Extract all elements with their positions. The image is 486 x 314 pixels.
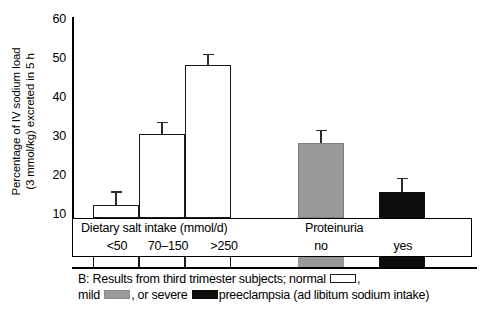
group-label-dietary-salt-intake: Dietary salt intake (mmol/d) (81, 221, 228, 235)
y-tick-label-50: 50 (0, 52, 66, 64)
y-axis-title-line1: Percentage of IV sodium load (10, 14, 24, 229)
errorbar-severe-proteinuria-yes (401, 179, 402, 192)
errorbar-cap (397, 178, 408, 179)
x-category-label-gt250: >250 (196, 239, 252, 253)
x-category-label-yes: yes (379, 239, 427, 253)
caption-line-1: B: Results from third trimester subjects… (78, 271, 482, 287)
x-category-label-70-150: 70–150 (133, 239, 203, 253)
group-label-proteinuria: Proteinuria (305, 221, 363, 235)
caption-line2-text-a: mild (78, 288, 100, 302)
caption-line2-text-b: , or severe (131, 288, 187, 302)
errorbar-normal-gt250 (207, 55, 208, 65)
errorbar-normal-70-150 (161, 123, 162, 133)
y-tick-label-30: 30 (0, 130, 66, 142)
x-category-label-no: no (297, 239, 345, 253)
figure-caption: B: Results from third trimester subjects… (78, 271, 482, 303)
errorbar-normal-lt50 (115, 193, 116, 206)
errorbar-cap (157, 122, 168, 123)
caption-line2-text-c: preeclampsia (ad libitum sodium intake) (219, 288, 429, 302)
y-axis-title-line2: (3 mmol/kg) excreted in 5 h (24, 14, 38, 229)
errorbar-mild-proteinuria-no (320, 131, 321, 143)
plot-area (72, 19, 472, 218)
x-axis-label-box: Dietary salt intake (mmol/d) Proteinuria… (72, 219, 472, 257)
legend-swatch-normal (330, 274, 356, 283)
y-axis-title: Percentage of IV sodium load (3 mmol/kg)… (10, 14, 37, 229)
bar-severe-proteinuria-yes (379, 192, 425, 218)
caption-line1-text-a: B: Results from third trimester subjects… (78, 272, 326, 286)
y-tick-label-40: 40 (0, 91, 66, 103)
figure-bottom-rule (72, 267, 477, 269)
y-tick-label-60: 60 (0, 13, 66, 25)
legend-swatch-severe (192, 290, 218, 299)
caption-line-2: mild , or severe preeclampsia (ad libitu… (78, 287, 482, 303)
bar-mild-proteinuria-no (298, 143, 344, 218)
errorbar-cap (203, 54, 214, 55)
bar-normal-gt250 (185, 65, 231, 218)
caption-line1-text-b: , (357, 272, 360, 286)
y-tick-label-10: 10 (0, 208, 66, 220)
y-tick-label-20: 20 (0, 169, 66, 181)
figure-panel-b: Percentage of IV sodium load (3 mmol/kg)… (0, 0, 486, 314)
bar-normal-lt50 (93, 205, 139, 218)
errorbar-cap (316, 130, 327, 131)
bar-normal-70-150 (139, 134, 185, 219)
errorbar-cap (111, 191, 122, 192)
legend-swatch-mild (104, 290, 130, 299)
